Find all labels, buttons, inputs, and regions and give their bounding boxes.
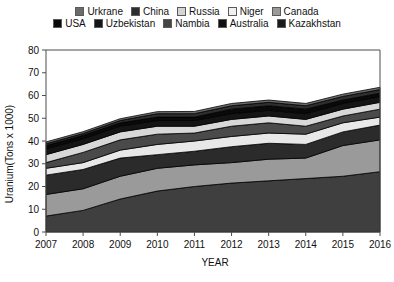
legend-label-russia: Russia bbox=[189, 6, 220, 17]
y-tick-label-50: 50 bbox=[28, 113, 40, 124]
chart-legend: Urkrane China Russia Niger Canada U bbox=[0, 6, 394, 29]
legend-row-1: Urkrane China Russia Niger Canada bbox=[71, 6, 322, 17]
legend-swatch-nambia bbox=[163, 19, 172, 28]
x-tick-label-2009: 2009 bbox=[109, 239, 132, 250]
x-tick-label-2012: 2012 bbox=[220, 239, 243, 250]
legend-label-china: China bbox=[143, 6, 169, 17]
stacked-area-chart: 0102030405060708020072008200920102011201… bbox=[0, 44, 394, 282]
x-tick-label-2014: 2014 bbox=[295, 239, 318, 250]
legend-label-australia: Australia bbox=[230, 18, 269, 29]
y-tick-label-20: 20 bbox=[28, 181, 40, 192]
y-tick-label-80: 80 bbox=[28, 45, 40, 56]
legend-swatch-russia bbox=[177, 7, 186, 16]
legend-label-uzbekistan: Uzbekistan bbox=[106, 18, 155, 29]
legend-item-niger[interactable]: Niger bbox=[228, 6, 264, 17]
legend-item-uzbekistan[interactable]: Uzbekistan bbox=[94, 18, 155, 29]
legend-label-urkrane: Urkrane bbox=[87, 6, 123, 17]
legend-row-2: USA Uzbekistan Nambia Australia Kazakhst… bbox=[49, 18, 345, 29]
x-tick-label-2015: 2015 bbox=[332, 239, 355, 250]
plot-area: 0102030405060708020072008200920102011201… bbox=[0, 44, 394, 282]
x-tick-label-2008: 2008 bbox=[72, 239, 95, 250]
x-axis-title: YEAR bbox=[201, 257, 228, 268]
uranium-stacked-area-figure: Urkrane China Russia Niger Canada U bbox=[0, 0, 394, 282]
legend-swatch-australia bbox=[218, 19, 227, 28]
x-tick-label-2013: 2013 bbox=[258, 239, 281, 250]
area-bands bbox=[46, 87, 380, 232]
x-tick-label-2016: 2016 bbox=[369, 239, 392, 250]
legend-label-canada: Canada bbox=[284, 6, 319, 17]
legend-swatch-kazakhstan bbox=[277, 19, 286, 28]
y-tick-label-0: 0 bbox=[33, 227, 39, 238]
legend-swatch-niger bbox=[228, 7, 237, 16]
y-tick-label-40: 40 bbox=[28, 136, 40, 147]
legend-swatch-china bbox=[131, 7, 140, 16]
x-tick-label-2010: 2010 bbox=[146, 239, 169, 250]
y-tick-label-60: 60 bbox=[28, 90, 40, 101]
legend-swatch-uzbekistan bbox=[94, 19, 103, 28]
y-axis-title: Uranium(Tons x 1000) bbox=[4, 105, 15, 203]
legend-item-russia[interactable]: Russia bbox=[177, 6, 220, 17]
legend-swatch-urkrane bbox=[75, 7, 84, 16]
legend-label-kazakhstan: Kazakhstan bbox=[289, 18, 341, 29]
legend-label-usa: USA bbox=[65, 18, 86, 29]
y-tick-label-10: 10 bbox=[28, 204, 40, 215]
legend-swatch-usa bbox=[53, 19, 62, 28]
legend-item-canada[interactable]: Canada bbox=[272, 6, 319, 17]
legend-label-nambia: Nambia bbox=[175, 18, 209, 29]
legend-item-china[interactable]: China bbox=[131, 6, 169, 17]
legend-item-usa[interactable]: USA bbox=[53, 18, 86, 29]
legend-item-urkrane[interactable]: Urkrane bbox=[75, 6, 123, 17]
y-tick-label-70: 70 bbox=[28, 67, 40, 78]
y-tick-label-30: 30 bbox=[28, 158, 40, 169]
legend-item-kazakhstan[interactable]: Kazakhstan bbox=[277, 18, 341, 29]
legend-label-niger: Niger bbox=[240, 6, 264, 17]
x-tick-label-2011: 2011 bbox=[184, 239, 206, 250]
legend-item-nambia[interactable]: Nambia bbox=[163, 18, 209, 29]
x-tick-label-2007: 2007 bbox=[35, 239, 58, 250]
legend-item-australia[interactable]: Australia bbox=[218, 18, 269, 29]
legend-swatch-canada bbox=[272, 7, 281, 16]
